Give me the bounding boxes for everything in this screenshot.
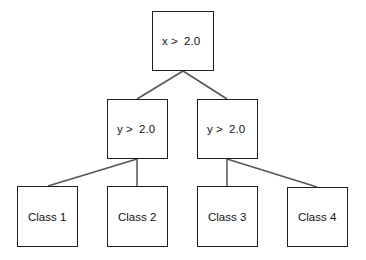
leaf-class-2: Class 2 — [107, 186, 168, 247]
right-condition-label: y > 2.0 — [198, 123, 245, 135]
left-condition-label: y > 2.0 — [108, 123, 155, 135]
left-split-node: y > 2.0 — [107, 99, 168, 159]
decision-tree-diagram: x > 2.0 y > 2.0 y > 2.0 Class 1 Class 2 … — [0, 0, 366, 260]
edge-root-right — [183, 71, 227, 99]
root-node: x > 2.0 — [152, 11, 214, 71]
class-2-label: Class 2 — [108, 211, 156, 223]
right-split-node: y > 2.0 — [197, 99, 258, 159]
edge-root-left — [137, 71, 183, 99]
leaf-class-1: Class 1 — [17, 186, 78, 247]
leaf-class-3: Class 3 — [197, 186, 258, 247]
class-4-label: Class 4 — [288, 211, 336, 223]
class-3-label: Class 3 — [198, 211, 246, 223]
leaf-class-4: Class 4 — [287, 187, 348, 247]
edge-right-c4 — [227, 159, 317, 187]
edge-left-c1 — [48, 159, 137, 186]
class-1-label: Class 1 — [18, 211, 66, 223]
root-condition-label: x > 2.0 — [153, 35, 200, 47]
